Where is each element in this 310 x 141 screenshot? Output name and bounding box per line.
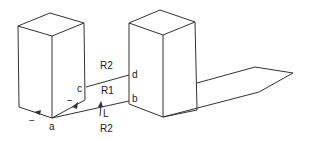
diagram-canvas: R2 d c R1 b − L − a R2 <box>0 0 310 141</box>
label-r2-bottom: R2 <box>100 124 113 134</box>
cast-shadow <box>163 67 293 117</box>
right-block <box>129 10 197 117</box>
label-r2-top: R2 <box>100 61 113 71</box>
label-r1: R1 <box>101 86 114 96</box>
diagram-lines <box>0 0 310 141</box>
arrow-up-icon <box>98 101 103 107</box>
arrow-icon <box>34 110 41 115</box>
label-minus-left: − <box>29 116 35 126</box>
label-minus-right: − <box>67 96 73 106</box>
label-a: a <box>49 122 55 132</box>
label-c: c <box>77 84 82 94</box>
label-b: b <box>132 94 138 104</box>
line-a-b <box>52 101 129 118</box>
label-l: L <box>103 109 109 119</box>
left-block <box>18 13 85 118</box>
label-d: d <box>132 70 138 80</box>
